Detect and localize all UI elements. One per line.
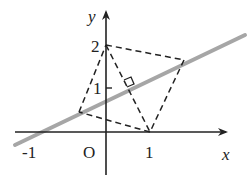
- y-tick-label-1: 1: [93, 79, 102, 98]
- x-tick-label-1: 1: [145, 143, 154, 162]
- origin-label: O: [83, 143, 95, 162]
- y-tick-label-2: 2: [91, 37, 100, 56]
- dashed-diagonal: [106, 45, 150, 132]
- gray-line: [15, 35, 245, 145]
- y-axis-label: y: [86, 7, 96, 26]
- coordinate-diagram: y x O -1 1 1 2: [0, 0, 251, 185]
- x-tick-label-neg1: -1: [22, 143, 36, 162]
- x-axis-label: x: [221, 145, 230, 164]
